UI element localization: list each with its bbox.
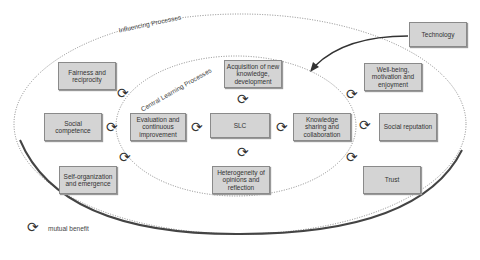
legend-label: mutual benefit: [48, 225, 89, 232]
cycle-arrows-icon: ⟳: [116, 86, 130, 100]
cycle-arrows-icon: ⟳: [275, 120, 289, 134]
cycle-arrows-icon: ⟳: [190, 120, 204, 134]
cycle-arrows-icon: ⟳: [345, 150, 359, 164]
node-wellbeing: Well-being, motivation and enjoyment: [364, 63, 422, 91]
node-social-reputation: Social reputation: [379, 113, 437, 141]
cycle-arrows-icon: ⟳: [105, 120, 119, 134]
node-social-competence: Social competence: [44, 113, 102, 141]
cycle-arrows-icon: ⟳: [118, 150, 132, 164]
node-technology: Technology: [409, 22, 467, 47]
cycle-arrows-icon: ⟳: [236, 92, 250, 106]
cycle-arrows-icon: ⟳: [236, 145, 250, 159]
node-knowledge-sharing: Knowledge sharing and collaboration: [293, 113, 351, 141]
node-fairness: Fairness and reciprocity: [58, 62, 116, 90]
node-slc: SLC: [210, 113, 270, 138]
cycle-arrows-icon: ⟳: [345, 87, 359, 101]
legend-cycle-arrows-icon: ⟳: [26, 220, 40, 234]
slc-diagram: Influencing Processes Central Learning P…: [0, 0, 480, 260]
node-acquisition: Acquisition of new knowledge, developmen…: [224, 60, 282, 88]
node-heterogeneity: Heterogeneity of opinions and reflection: [212, 166, 270, 194]
cycle-arrows-icon: ⟳: [358, 118, 372, 132]
node-evaluation: Evaluation and continuous improvement: [130, 113, 186, 141]
node-self-organization: Self-organization and emergence: [59, 166, 117, 194]
node-trust: Trust: [363, 166, 421, 194]
